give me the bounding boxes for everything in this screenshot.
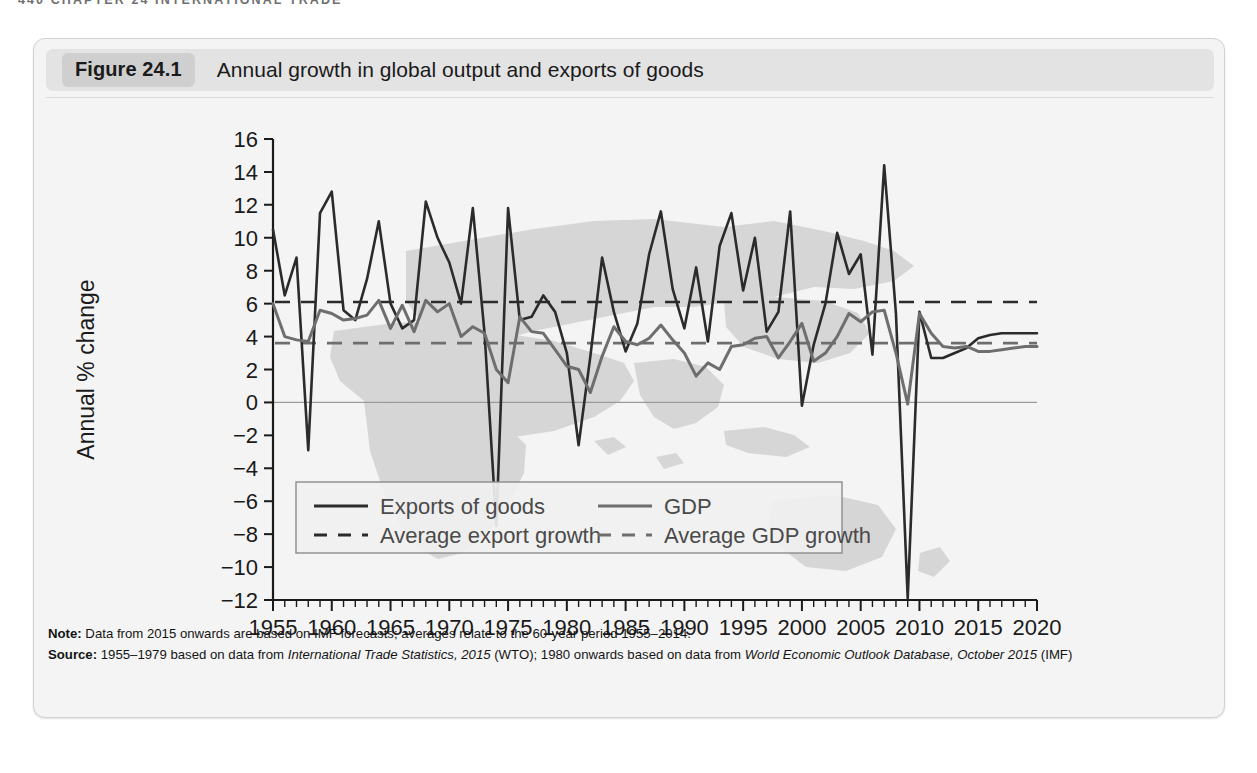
y-axis-title: Annual % change [73, 279, 99, 459]
source-title-imf: World Economic Outlook Database, October… [745, 647, 1037, 662]
y-tick-label: 8 [246, 259, 258, 284]
legend-label-avg_exports: Average export growth [380, 523, 601, 548]
legend-label-avg_gdp: Average GDP growth [664, 523, 871, 548]
figure-card: Figure 24.1 Annual growth in global outp… [33, 38, 1225, 718]
figure-number-badge: Figure 24.1 [62, 53, 195, 87]
figure-footnotes: Note: Data from 2015 onwards are based o… [48, 624, 1210, 667]
source-label: Source: [48, 647, 97, 662]
y-tick-label: −8 [233, 522, 258, 547]
chart-legend: Exports of goodsGDPAverage export growth… [296, 482, 871, 553]
y-tick-label: 0 [246, 390, 258, 415]
y-tick-label: 4 [246, 325, 258, 350]
line-chart: −12−10−8−6−4−20246810121416Annual % chan… [34, 101, 1225, 661]
map-region-8 [594, 437, 626, 455]
legend-label-exports: Exports of goods [380, 494, 545, 519]
y-tick-label: 10 [234, 226, 258, 251]
note-line: Note: Data from 2015 onwards are based o… [48, 624, 1210, 644]
figure-header: Figure 24.1 Annual growth in global outp… [46, 49, 1214, 91]
note-text: Data from 2015 onwards are based on IMF … [82, 626, 691, 641]
y-tick-label: 2 [246, 358, 258, 383]
chart-plot-area: −12−10−8−6−4−20246810121416Annual % chan… [34, 101, 1225, 661]
header-divider [46, 97, 1214, 98]
source-text-3: (IMF) [1037, 647, 1072, 662]
y-tick-label: 6 [246, 292, 258, 317]
y-tick-label: −12 [221, 588, 258, 613]
y-tick-label: 14 [234, 160, 258, 185]
y-tick-label: 16 [234, 127, 258, 152]
y-tick-label: 12 [234, 193, 258, 218]
source-title-wto: International Trade Statistics, 2015 [288, 647, 491, 662]
y-tick-label: −2 [233, 423, 258, 448]
figure-title: Annual growth in global output and expor… [217, 58, 704, 82]
source-text-1: 1955–1979 based on data from [97, 647, 288, 662]
source-text-2: (WTO); 1980 onwards based on data from [491, 647, 745, 662]
legend-label-gdp: GDP [664, 494, 712, 519]
y-tick-label: −4 [233, 456, 258, 481]
y-tick-label: −10 [221, 555, 258, 580]
map-region-3 [634, 359, 724, 429]
y-tick-label: −6 [233, 489, 258, 514]
note-label: Note: [48, 626, 82, 641]
source-line: Source: 1955–1979 based on data from Int… [48, 645, 1210, 665]
map-region-5 [724, 427, 810, 457]
running-head: 440 CHAPTER 24 INTERNATIONAL TRADE [18, 0, 342, 7]
map-region-7 [918, 547, 950, 577]
map-region-9 [656, 453, 684, 469]
